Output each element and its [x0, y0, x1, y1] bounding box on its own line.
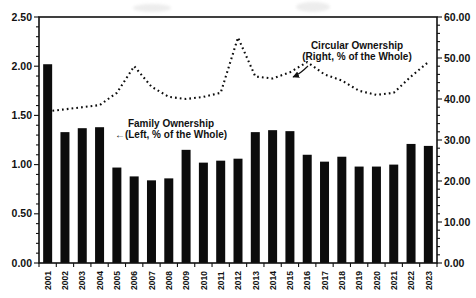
annotation-family-line2: ←(Left, % of the Whole) [106, 129, 236, 140]
bar-2006 [130, 176, 139, 263]
bar-2001 [43, 64, 52, 263]
year-label-2009: 2009 [181, 271, 191, 290]
year-label-2015: 2015 [285, 271, 295, 290]
arrow-to-line [293, 66, 308, 77]
left-axis-tick-label: 1.00 [12, 158, 33, 170]
year-label-2017: 2017 [320, 271, 330, 290]
year-label-2006: 2006 [129, 271, 139, 290]
bar-2014 [268, 130, 277, 263]
year-label-2001: 2001 [43, 271, 53, 290]
year-label-2007: 2007 [147, 271, 157, 290]
right-axis-tick-label: 30.00 [444, 134, 470, 146]
left-axis-tick-label: 2.00 [12, 60, 33, 72]
year-label-2013: 2013 [251, 271, 261, 290]
bar-2023 [424, 146, 433, 263]
year-label-2020: 2020 [372, 271, 382, 290]
left-axis-tick-label: 2.50 [12, 11, 33, 23]
year-label-2016: 2016 [302, 271, 312, 290]
bar-2019 [355, 167, 364, 263]
bar-2012 [234, 159, 243, 263]
bar-2017 [320, 162, 329, 263]
circular-annotation-arrow [293, 66, 308, 77]
bar-2008 [164, 178, 173, 263]
right-axis-tick-label: 60.00 [444, 11, 470, 23]
year-label-2008: 2008 [164, 271, 174, 290]
bar-2011 [216, 161, 225, 263]
year-label-2004: 2004 [95, 271, 105, 290]
annotation-family-line1: Family Ownership [106, 118, 236, 129]
year-label-2002: 2002 [60, 271, 70, 290]
year-label-2018: 2018 [337, 271, 347, 290]
scan-artifact [296, 2, 330, 12]
year-label-2012: 2012 [233, 271, 243, 290]
year-label-2010: 2010 [199, 271, 209, 290]
annotation-family-ownership: Family Ownership ←(Left, % of the Whole) [106, 118, 236, 140]
right-axis-tick-label: 10.00 [444, 216, 470, 228]
bar-2010 [199, 163, 208, 263]
year-label-2021: 2021 [389, 271, 399, 290]
bar-2022 [407, 144, 416, 263]
bar-2021 [389, 165, 398, 263]
bar-2005 [112, 168, 121, 263]
scan-artifact [133, 4, 171, 12]
year-label-2019: 2019 [354, 271, 364, 290]
bar-2007 [147, 180, 156, 263]
annotation-circular-ownership: Circular Ownership (Right, % of the Whol… [298, 40, 416, 62]
right-axis-tick-label: 40.00 [444, 93, 470, 105]
bar-series-family-ownership [43, 64, 433, 263]
right-axis-tick-label: 0.00 [444, 257, 465, 269]
bar-2020 [372, 167, 381, 263]
annotation-circular-line2: (Right, % of the Whole) [298, 51, 416, 62]
right-axis-tick-label: 50.00 [444, 52, 470, 64]
bar-2002 [60, 132, 69, 263]
annotation-circular-line1: Circular Ownership [298, 40, 416, 51]
bar-2015 [285, 131, 294, 263]
year-label-2011: 2011 [216, 271, 226, 290]
year-label-2003: 2003 [77, 271, 87, 290]
year-label-2005: 2005 [112, 271, 122, 290]
bar-2009 [182, 150, 191, 263]
left-axis-tick-label: 0.00 [12, 257, 33, 269]
year-label-2023: 2023 [424, 271, 434, 290]
bar-2003 [78, 128, 87, 263]
chart-figure: 0.000.501.001.502.002.500.0010.0020.0030… [0, 0, 476, 298]
bar-2016 [303, 155, 312, 263]
bar-2004 [95, 127, 104, 263]
right-axis-tick-label: 20.00 [444, 175, 470, 187]
left-axis-tick-label: 0.50 [12, 207, 33, 219]
bar-2018 [337, 157, 346, 263]
year-label-2014: 2014 [268, 271, 278, 290]
left-axis-tick-label: 1.50 [12, 109, 33, 121]
year-label-2022: 2022 [406, 271, 416, 290]
bar-2013 [251, 132, 260, 263]
